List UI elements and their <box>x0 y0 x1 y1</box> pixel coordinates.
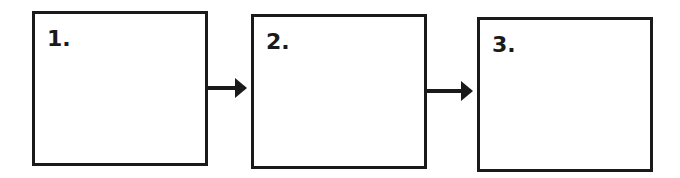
arrow-right-icon <box>426 89 471 93</box>
step-box-1: 1. <box>32 11 208 166</box>
step-box-2: 2. <box>251 14 427 169</box>
arrow-right-icon <box>207 86 245 90</box>
step-box-3: 3. <box>477 17 653 172</box>
step-label-2: 2. <box>266 29 290 54</box>
step-label-1: 1. <box>47 26 71 51</box>
step-label-3: 3. <box>492 32 516 57</box>
